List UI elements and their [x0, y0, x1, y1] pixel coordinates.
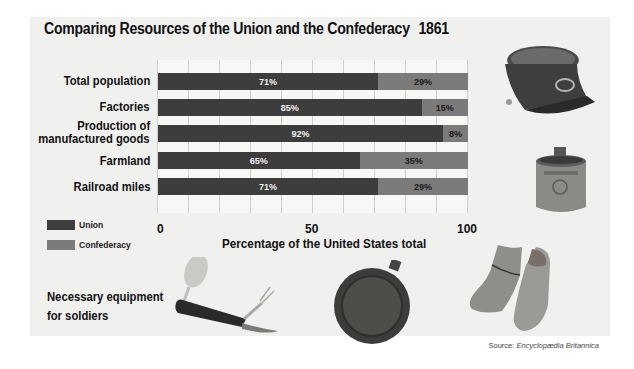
legend-swatch-confederacy [47, 240, 75, 250]
canteen-image [332, 260, 418, 350]
title-year: 1861 [419, 20, 449, 37]
x-axis-label: Percentage of the United States total [222, 236, 426, 251]
x-tick-0: 0 [157, 222, 164, 236]
title-text: Comparing Resources of the Union and the… [44, 20, 410, 37]
bar-confederacy-segment: 15% [422, 99, 469, 116]
bar-manufactured-goods: 92% 8% [158, 125, 468, 142]
row-label-total-population: Total population [63, 75, 150, 88]
equipment-caption: Necessary equipment for soldiers [47, 288, 163, 326]
x-tick-50: 50 [305, 222, 318, 236]
bar-farmland: 65% 35% [158, 152, 468, 169]
bar-union-segment: 92% [158, 125, 443, 142]
bar-confederacy-segment: 8% [443, 125, 468, 142]
legend-label-confederacy: Confederacy [79, 239, 131, 250]
row-label-railroad-miles: Railroad miles [73, 181, 150, 194]
bar-factories: 85% 15% [158, 99, 468, 116]
x-tick-100: 100 [457, 222, 477, 236]
kepi-cap-image [495, 40, 597, 120]
shoes-image [462, 235, 560, 335]
source-note: Source: Encyclopædia Britannica [489, 341, 599, 350]
source-name: Encyclopædia Britannica [516, 341, 599, 350]
row-label-farmland: Farmland [99, 155, 150, 168]
source-prefix: Source: [489, 341, 517, 350]
bar-union-segment: 71% [158, 73, 378, 90]
bar-union-segment: 71% [158, 178, 378, 195]
bar-union-segment: 65% [158, 152, 360, 169]
bar-confederacy-segment: 35% [360, 152, 469, 169]
caption-line-1: Necessary equipment [47, 288, 163, 307]
chart-title: Comparing Resources of the Union and the… [44, 20, 449, 38]
legend-swatch-union [47, 220, 75, 230]
tin-cup-image [532, 147, 590, 217]
bar-union-segment: 85% [158, 99, 422, 116]
caption-line-2: for soldiers [47, 307, 163, 326]
bar-confederacy-segment: 29% [378, 178, 468, 195]
bar-confederacy-segment: 29% [378, 73, 468, 90]
bar-total-population: 71% 29% [158, 73, 468, 90]
spoon-fork-knife-tool-image [172, 257, 280, 337]
bar-railroad-miles: 71% 29% [158, 178, 468, 195]
row-label-factories: Factories [100, 101, 150, 114]
row-label-production-line2: manufactured goods [39, 133, 150, 146]
legend-label-union: Union [79, 219, 103, 230]
